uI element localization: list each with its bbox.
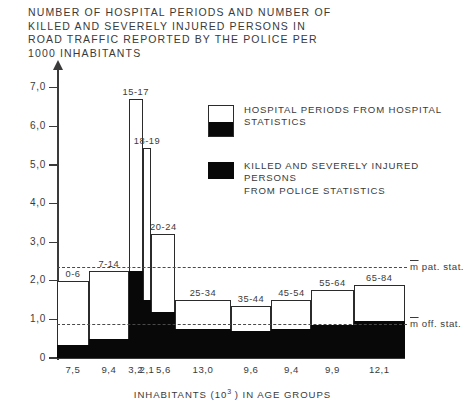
bar-police-killed-injured [129,271,143,358]
y-axis-tick-label: 3,0 [0,236,46,247]
legend-swatch-hospital-icon [208,105,234,137]
bar-group-label: 15-17 [122,87,149,97]
y-axis-tick-label: 4,0 [0,197,46,208]
legend-swatch-lower-icon [209,122,233,136]
bar-police-killed-injured [175,329,230,358]
x-axis-width-label: 13,0 [193,364,214,375]
mean-label-text: pat. stat. [419,261,465,272]
legend-item: HOSPITAL PERIODS FROM HOSPITAL STATISTIC… [208,104,460,140]
bar-police-killed-injured [143,300,152,358]
mean-line-pat [57,267,407,268]
x-axis-width-label: 7,5 [66,364,81,375]
bar-police-killed-injured [89,339,129,358]
x-axis-title-post: ) IN AGE GROUPS [231,389,331,400]
bar-police-killed-injured [311,325,353,358]
x-axis-title: INHABITANTS (103 ) IN AGE GROUPS [0,388,465,400]
legend-item-label: HOSPITAL PERIODS FROM HOSPITAL STATISTIC… [244,104,460,129]
y-axis-tick-label: 7,0 [0,81,46,92]
x-axis-width-label: 9,4 [284,364,299,375]
legend-item-label: KILLED AND SEVERELY INJURED PERSONS FROM… [244,160,460,197]
x-axis-width-label: 5,6 [156,364,171,375]
x-axis-width-label: 2,1 [140,364,155,375]
mean-label-text: off. stat. [419,318,462,329]
mean-line-off [57,324,407,325]
bar-police-killed-injured [231,331,272,358]
bar-group-label: 45-54 [278,288,305,298]
bar-group-label: 55-64 [319,278,346,288]
x-axis-width-label: 9,6 [244,364,259,375]
bar-group-label: 20-24 [150,222,177,232]
y-axis-tick-label: 6,0 [0,120,46,131]
bar-group-label: 25-34 [190,288,217,298]
legend-item: KILLED AND SEVERELY INJURED PERSONS FROM… [208,160,460,197]
bar-group-label: 0-6 [65,269,80,279]
y-axis-tick-label: 1,0 [0,313,46,324]
y-axis-tick-label: 0 [0,352,46,363]
chart-root: NUMBER OF HOSPITAL PERIODS AND NUMBER OF… [0,0,465,409]
x-axis-line [57,358,405,359]
bar-police-killed-injured [354,321,405,358]
y-axis-tick-label: 5,0 [0,159,46,170]
bar-group-label: 65-84 [366,273,393,283]
legend-swatch-police-icon [208,162,234,179]
chart-title: NUMBER OF HOSPITAL PERIODS AND NUMBER OF… [28,6,448,60]
x-axis-title-pre: INHABITANTS (10 [134,389,228,400]
y-axis-tick-label: 2,0 [0,274,46,285]
bar-police-killed-injured [271,329,311,358]
bar-police-killed-injured [57,345,89,358]
mean-label-off: m off. stat. [410,318,461,329]
mean-symbol: m [410,318,419,329]
mean-symbol: m [410,261,419,272]
bar-police-killed-injured [151,312,175,358]
bar-group-label: 35-44 [238,294,265,304]
x-axis-width-label: 9,4 [101,364,116,375]
bar-group-label: 18-19 [134,136,161,146]
chart-legend: HOSPITAL PERIODS FROM HOSPITAL STATISTIC… [208,104,460,197]
x-axis-width-label: 12,1 [369,364,390,375]
mean-label-pat: m pat. stat. [410,261,464,272]
x-axis-width-label: 9,9 [325,364,340,375]
